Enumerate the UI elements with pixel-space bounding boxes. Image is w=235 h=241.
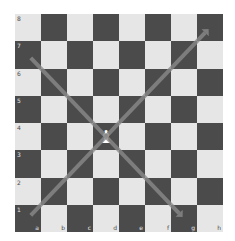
square-g4[interactable] bbox=[171, 123, 197, 150]
rank-label: 2 bbox=[17, 179, 21, 186]
square-a1[interactable]: 1a bbox=[15, 205, 41, 232]
square-a7[interactable]: 7 bbox=[15, 41, 41, 68]
square-a4[interactable]: 4 bbox=[15, 123, 41, 150]
file-label: e bbox=[139, 224, 143, 231]
rank-label: 3 bbox=[17, 151, 21, 158]
square-e5[interactable] bbox=[119, 96, 145, 123]
square-h1[interactable]: h bbox=[197, 205, 223, 232]
square-g2[interactable] bbox=[171, 178, 197, 205]
square-h6[interactable] bbox=[197, 69, 223, 96]
square-g7[interactable] bbox=[171, 41, 197, 68]
square-e7[interactable] bbox=[119, 41, 145, 68]
square-c6[interactable] bbox=[67, 69, 93, 96]
square-g1[interactable]: g bbox=[171, 205, 197, 232]
square-b3[interactable] bbox=[41, 150, 67, 177]
rank-label: 5 bbox=[17, 97, 21, 104]
square-b5[interactable] bbox=[41, 96, 67, 123]
file-label: c bbox=[88, 224, 91, 231]
square-g6[interactable] bbox=[171, 69, 197, 96]
rank-label: 8 bbox=[17, 15, 21, 22]
square-h7[interactable] bbox=[197, 41, 223, 68]
square-c7[interactable] bbox=[67, 41, 93, 68]
square-e2[interactable] bbox=[119, 178, 145, 205]
square-d3[interactable] bbox=[93, 150, 119, 177]
square-h4[interactable] bbox=[197, 123, 223, 150]
file-label: f bbox=[167, 224, 169, 231]
square-h8[interactable] bbox=[197, 14, 223, 41]
square-d8[interactable] bbox=[93, 14, 119, 41]
rank-label: 6 bbox=[17, 70, 21, 77]
file-label: g bbox=[191, 224, 195, 231]
square-a8[interactable]: 8 bbox=[15, 14, 41, 41]
rank-label: 7 bbox=[17, 42, 21, 49]
square-d1[interactable]: d bbox=[93, 205, 119, 232]
square-b6[interactable] bbox=[41, 69, 67, 96]
square-e4[interactable] bbox=[119, 123, 145, 150]
square-c1[interactable]: c bbox=[67, 205, 93, 232]
file-label: a bbox=[35, 224, 39, 231]
file-label: d bbox=[113, 224, 117, 231]
square-f8[interactable] bbox=[145, 14, 171, 41]
square-b2[interactable] bbox=[41, 178, 67, 205]
square-h3[interactable] bbox=[197, 150, 223, 177]
square-d2[interactable] bbox=[93, 178, 119, 205]
file-label: h bbox=[217, 224, 221, 231]
square-g8[interactable] bbox=[171, 14, 197, 41]
square-a5[interactable]: 5 bbox=[15, 96, 41, 123]
square-b8[interactable] bbox=[41, 14, 67, 41]
file-label: b bbox=[61, 224, 65, 231]
square-c8[interactable] bbox=[67, 14, 93, 41]
square-d4[interactable]: ♝ bbox=[93, 123, 119, 150]
square-e6[interactable] bbox=[119, 69, 145, 96]
square-f3[interactable] bbox=[145, 150, 171, 177]
square-b1[interactable]: b bbox=[41, 205, 67, 232]
square-a3[interactable]: 3 bbox=[15, 150, 41, 177]
square-b7[interactable] bbox=[41, 41, 67, 68]
square-c4[interactable] bbox=[67, 123, 93, 150]
white-bishop-icon[interactable]: ♝ bbox=[93, 123, 119, 150]
square-h5[interactable] bbox=[197, 96, 223, 123]
square-e1[interactable]: e bbox=[119, 205, 145, 232]
rank-label: 1 bbox=[17, 206, 21, 213]
square-g5[interactable] bbox=[171, 96, 197, 123]
square-b4[interactable] bbox=[41, 123, 67, 150]
square-c2[interactable] bbox=[67, 178, 93, 205]
square-d7[interactable] bbox=[93, 41, 119, 68]
square-e8[interactable] bbox=[119, 14, 145, 41]
square-c3[interactable] bbox=[67, 150, 93, 177]
square-f4[interactable] bbox=[145, 123, 171, 150]
chessboard[interactable]: 87654♝321abcdefgh bbox=[15, 14, 223, 232]
square-f2[interactable] bbox=[145, 178, 171, 205]
square-f1[interactable]: f bbox=[145, 205, 171, 232]
square-d6[interactable] bbox=[93, 69, 119, 96]
rank-label: 4 bbox=[17, 124, 21, 131]
square-a6[interactable]: 6 bbox=[15, 69, 41, 96]
square-d5[interactable] bbox=[93, 96, 119, 123]
square-f5[interactable] bbox=[145, 96, 171, 123]
square-a2[interactable]: 2 bbox=[15, 178, 41, 205]
square-f6[interactable] bbox=[145, 69, 171, 96]
square-h2[interactable] bbox=[197, 178, 223, 205]
square-f7[interactable] bbox=[145, 41, 171, 68]
square-g3[interactable] bbox=[171, 150, 197, 177]
square-c5[interactable] bbox=[67, 96, 93, 123]
square-e3[interactable] bbox=[119, 150, 145, 177]
